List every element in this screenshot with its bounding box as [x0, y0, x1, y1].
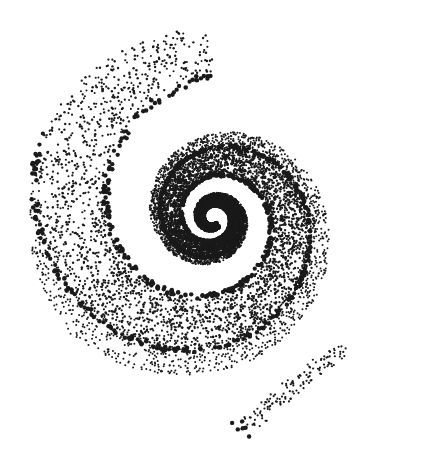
- stipple-spiral-artwork: [0, 0, 435, 452]
- spiral-canvas: [0, 0, 435, 452]
